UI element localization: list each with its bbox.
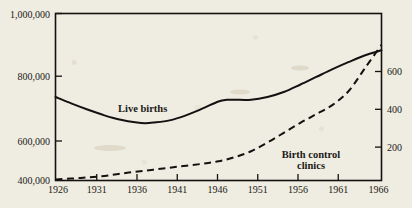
left-axis-ticks	[56, 14, 63, 142]
left-tick-label: 800,000	[18, 71, 51, 82]
x-tick-label: 1936	[127, 184, 147, 195]
scan-smudge	[230, 90, 250, 95]
right-axis-ticks	[375, 72, 382, 148]
x-tick-label: 1956	[288, 184, 308, 195]
right-axis-labels: 600 400 200	[387, 66, 402, 153]
x-axis-ticks	[97, 174, 339, 181]
series-annotation-live-births: Live births	[118, 103, 167, 114]
left-tick-label: 400,000	[18, 175, 51, 186]
left-axis-labels: 1,000,000 800,000 600,000 400,000	[10, 9, 50, 187]
left-tick-label: 600,000	[18, 136, 51, 147]
x-tick-label: 1931	[87, 184, 107, 195]
scan-smudge	[291, 66, 309, 71]
x-tick-label: 1926	[48, 184, 68, 195]
series-annotation-birth-control-clinics: Birth control	[282, 149, 341, 160]
x-tick-label: 1951	[248, 184, 268, 195]
left-tick-label: 1,000,000	[10, 9, 50, 20]
scan-smudge	[94, 145, 126, 151]
x-tick-label: 1941	[167, 184, 187, 195]
series-annotation-birth-control-clinics-line2: clinics	[297, 160, 325, 171]
x-tick-label: 1946	[208, 184, 228, 195]
right-tick-label: 600	[387, 66, 402, 77]
right-tick-label: 200	[387, 142, 402, 153]
x-axis-labels: 1926 1931 1936 1941 1946 1951 1956 1961 …	[48, 184, 389, 195]
x-tick-label: 1961	[328, 184, 348, 195]
chart-container: 1,000,000 800,000 600,000 400,000 600 40…	[0, 0, 412, 208]
x-tick-label: 1966	[369, 184, 389, 195]
right-tick-label: 400	[387, 104, 402, 115]
series-line-live-births	[56, 50, 382, 123]
chart-svg: 1,000,000 800,000 600,000 400,000 600 40…	[0, 0, 412, 208]
